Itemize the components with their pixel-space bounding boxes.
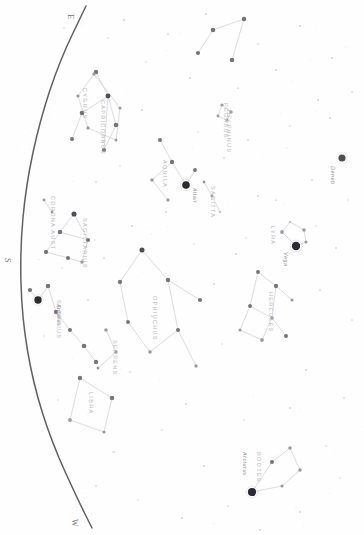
- field-star: [131, 225, 133, 227]
- constellation-star: [68, 328, 72, 332]
- named-star: [292, 242, 300, 250]
- constellation-star: [238, 328, 241, 331]
- constellation-line: [252, 486, 282, 492]
- constellation-line: [72, 113, 82, 139]
- field-star: [167, 33, 169, 35]
- named-stars-group: [33, 153, 348, 498]
- constellation-line: [104, 398, 112, 432]
- constellation-star: [44, 250, 48, 254]
- constellation-star: [114, 350, 117, 353]
- constellation-line: [272, 448, 290, 462]
- constellation-star: [289, 221, 292, 224]
- constellation-line: [252, 462, 272, 492]
- constellation-line: [304, 230, 306, 242]
- field-star: [335, 247, 337, 249]
- constellation-line: [290, 222, 304, 230]
- constellation-star: [94, 360, 98, 364]
- constellation-line: [48, 286, 56, 312]
- constellation-star: [248, 304, 252, 308]
- constellation-line: [68, 258, 82, 262]
- field-star: [57, 399, 59, 401]
- field-star: [325, 445, 327, 447]
- constellation-star: [304, 240, 307, 243]
- constellation-star: [193, 168, 197, 172]
- field-star: [145, 61, 147, 63]
- constellation-line: [250, 272, 258, 306]
- constellation-star: [70, 137, 74, 141]
- constellation-star: [43, 199, 46, 202]
- field-star: [141, 109, 143, 111]
- field-star: [103, 257, 105, 259]
- field-star: [339, 477, 341, 479]
- field-star: [299, 25, 301, 27]
- named-star: [338, 154, 345, 161]
- constellation-line: [178, 330, 196, 366]
- constellation-star: [260, 338, 264, 342]
- constellation-line: [168, 280, 178, 330]
- constellation-line: [152, 180, 168, 200]
- constellation-line: [218, 105, 222, 116]
- constellation-line: [282, 470, 300, 486]
- field-star: [257, 195, 259, 197]
- constellation-star: [229, 110, 232, 113]
- field-star: [119, 165, 121, 167]
- field-star: [137, 499, 139, 501]
- field-star: [181, 517, 183, 519]
- constellation-star: [256, 270, 260, 274]
- constellation-line: [60, 214, 74, 232]
- constellation-star: [210, 194, 213, 197]
- constellation-line: [98, 352, 116, 368]
- field-star: [243, 419, 245, 421]
- field-star: [237, 87, 239, 89]
- constellation-line: [240, 330, 262, 340]
- field-star: [347, 199, 349, 201]
- field-star: [275, 199, 277, 201]
- constellation-star: [118, 280, 122, 284]
- constellation-star: [196, 51, 200, 55]
- constellation-star: [28, 288, 32, 292]
- field-star: [329, 117, 331, 119]
- constellation-star: [118, 106, 121, 109]
- field-star: [161, 429, 163, 431]
- constellation-line: [104, 96, 108, 150]
- constellation-star: [280, 484, 283, 487]
- constellation-line: [120, 282, 128, 322]
- field-star: [87, 299, 89, 301]
- constellation-line: [272, 286, 276, 318]
- constellation-star: [211, 28, 216, 33]
- horizon-arc: [21, 6, 92, 528]
- field-star: [95, 485, 97, 487]
- constellation-line: [70, 330, 84, 346]
- constellation-star: [148, 350, 152, 354]
- constellation-star: [86, 126, 89, 129]
- field-star: [203, 465, 205, 467]
- field-star: [305, 369, 307, 371]
- field-star: [331, 57, 333, 59]
- constellation-star: [71, 211, 76, 216]
- constellation-line: [70, 420, 104, 432]
- constellation-line: [142, 250, 168, 280]
- constellation-line: [150, 330, 178, 352]
- constellation-line: [128, 322, 150, 352]
- constellation-line: [60, 232, 88, 240]
- constellation-line: [272, 318, 286, 336]
- named-star: [182, 181, 190, 189]
- sky-canvas: [0, 0, 364, 535]
- constellation-star: [106, 94, 111, 99]
- constellation-star: [280, 230, 284, 234]
- field-star: [223, 157, 225, 159]
- field-star: [275, 69, 277, 71]
- constellation-star: [166, 198, 169, 201]
- constellation-line: [160, 140, 172, 162]
- constellation-star: [86, 238, 90, 242]
- constellation-star: [104, 328, 108, 332]
- constellation-star: [302, 228, 306, 232]
- constellation-star: [176, 328, 180, 332]
- constellation-line: [290, 448, 300, 470]
- field-star: [63, 27, 64, 28]
- field-star: [245, 237, 247, 239]
- constellation-star: [284, 334, 288, 338]
- constellation-line: [80, 378, 112, 398]
- field-star: [205, 13, 207, 15]
- constellation-star: [102, 430, 105, 433]
